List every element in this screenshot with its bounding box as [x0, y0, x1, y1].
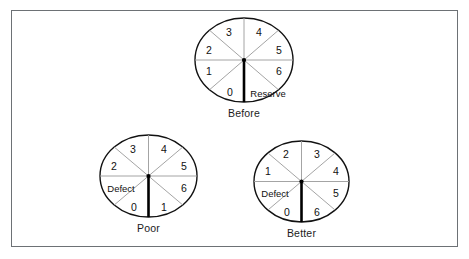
- sector-defect-label: Defect: [261, 188, 289, 199]
- sector-6-label: 6: [181, 182, 187, 194]
- wheel-poor-svg: 3 4 2 5 Defect 6 0 1: [99, 134, 198, 218]
- wheel-poor: 3 4 2 5 Defect 6 0 1: [99, 134, 198, 218]
- center-hub: [242, 58, 246, 62]
- sector-3-label: 3: [130, 143, 136, 155]
- sector-0-label: 0: [227, 86, 233, 98]
- figure-root: 3 4 2 5 1 6 0 Reserve Before 3: [0, 0, 469, 259]
- wheel-better-svg: 2 3 1 4 Defect 5 0 6: [253, 140, 350, 223]
- wheel-before-svg: 3 4 2 5 1 6 0 Reserve: [194, 17, 294, 103]
- sector-0-label: 0: [284, 206, 290, 218]
- wheel-better: 2 3 1 4 Defect 5 0 6: [253, 140, 350, 223]
- wheel-before: 3 4 2 5 1 6 0 Reserve: [194, 17, 294, 103]
- sector-2-label: 2: [206, 44, 212, 56]
- figure-frame: 3 4 2 5 1 6 0 Reserve Before 3: [11, 10, 458, 247]
- sector-6-label: 6: [276, 65, 282, 77]
- sector-4-label: 4: [161, 143, 167, 155]
- wheel-before-caption: Before: [194, 107, 294, 119]
- wheel-poor-caption: Poor: [99, 222, 198, 234]
- wheel-better-caption: Better: [253, 227, 350, 239]
- center-hub: [299, 179, 303, 183]
- sector-1-label: 1: [206, 65, 212, 77]
- sector-4-label: 4: [256, 26, 262, 38]
- sector-1-label: 1: [265, 165, 271, 177]
- sector-3-label: 3: [314, 148, 320, 160]
- sector-5-label: 5: [276, 44, 282, 56]
- sector-1-label: 1: [161, 201, 167, 213]
- sector-4-label: 4: [333, 165, 339, 177]
- sector-6-label: 6: [314, 206, 320, 218]
- center-hub: [146, 174, 150, 178]
- sector-3-label: 3: [226, 26, 232, 38]
- sector-2-label: 2: [111, 160, 117, 172]
- sector-reserve-label: Reserve: [250, 88, 285, 99]
- sector-defect-label: Defect: [107, 183, 135, 194]
- sector-2-label: 2: [283, 148, 289, 160]
- sector-5-label: 5: [333, 187, 339, 199]
- sector-0-label: 0: [131, 201, 137, 213]
- sector-5-label: 5: [181, 160, 187, 172]
